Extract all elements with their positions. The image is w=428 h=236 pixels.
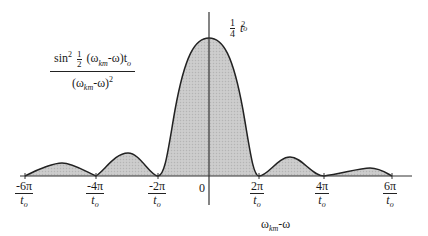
x-tick-label-2pi: 2π to — [250, 180, 264, 211]
x-tick-label-neg2pi: -2π to — [148, 180, 166, 211]
chart-canvas — [0, 0, 428, 236]
x-tick-label-zero: 0 — [199, 182, 205, 194]
x-axis-label: ωkm-ω — [261, 218, 290, 235]
peak-label: 1 4 to2 — [230, 18, 251, 39]
y-axis-label: sin2 1 2 (ωkm-ω)to (ωkm-ω)2 — [50, 50, 135, 92]
x-tick-label-neg6pi: -6π to — [15, 180, 33, 211]
x-tick-label-6pi: 6π to — [383, 180, 397, 211]
y-label-numerator: sin2 1 2 (ωkm-ω)to — [50, 50, 135, 72]
x-tick-label-neg4pi: -4π to — [86, 180, 104, 211]
y-label-denominator: (ωkm-ω)2 — [72, 72, 113, 92]
x-tick-label-4pi: 4π to — [315, 180, 329, 211]
